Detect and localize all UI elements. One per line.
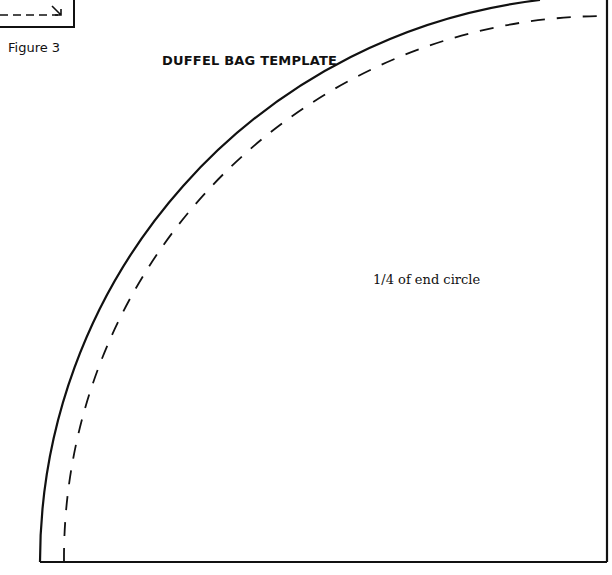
seam-line-arc — [64, 16, 606, 562]
template-drawing — [0, 0, 612, 575]
arrow-icon — [52, 6, 61, 15]
figure-number: Figure 3 — [8, 40, 60, 55]
previous-figure-box — [0, 0, 74, 27]
template-title: DUFFEL BAG TEMPLATE — [162, 53, 337, 68]
piece-label: 1/4 of end circle — [373, 272, 480, 287]
